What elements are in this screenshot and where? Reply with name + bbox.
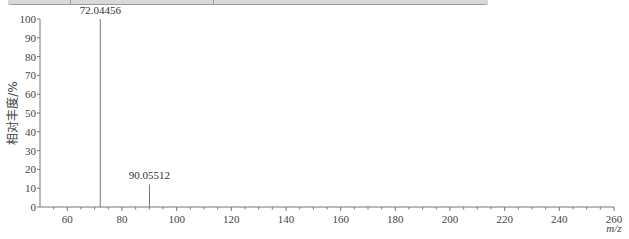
x-axis-label: m/z xyxy=(606,222,622,234)
x-tick-label: 160 xyxy=(332,213,349,225)
mass-spectrum-chart: 0102030405060708090100608010012014016018… xyxy=(0,0,629,239)
x-tick-label: 140 xyxy=(278,213,295,225)
y-tick-label: 30 xyxy=(25,145,37,157)
y-tick-label: 20 xyxy=(25,163,37,175)
x-tick-label: 180 xyxy=(387,213,404,225)
x-tick-label: 80 xyxy=(117,213,129,225)
y-tick-label: 40 xyxy=(25,126,37,138)
x-tick-label: 100 xyxy=(168,213,185,225)
x-tick-label: 200 xyxy=(442,213,459,225)
x-tick-label: 220 xyxy=(496,213,513,225)
y-tick-label: 80 xyxy=(25,51,37,63)
peak-label: 90.05512 xyxy=(129,169,170,181)
x-tick-label: 120 xyxy=(223,213,240,225)
y-tick-label: 60 xyxy=(25,88,37,100)
axes: 0102030405060708090100608010012014016018… xyxy=(20,13,623,225)
y-tick-label: 100 xyxy=(20,13,37,25)
x-tick-label: 60 xyxy=(62,213,74,225)
y-tick-label: 0 xyxy=(31,201,37,213)
y-tick-label: 90 xyxy=(25,32,37,44)
y-axis-label: 相对丰度/% xyxy=(5,81,20,144)
peaks: 72.0445690.05512 xyxy=(80,4,170,207)
y-tick-label: 70 xyxy=(25,69,37,81)
peak-label: 72.04456 xyxy=(80,4,122,16)
y-tick-label: 10 xyxy=(25,182,37,194)
x-tick-label: 240 xyxy=(551,213,568,225)
y-tick-label: 50 xyxy=(25,107,37,119)
